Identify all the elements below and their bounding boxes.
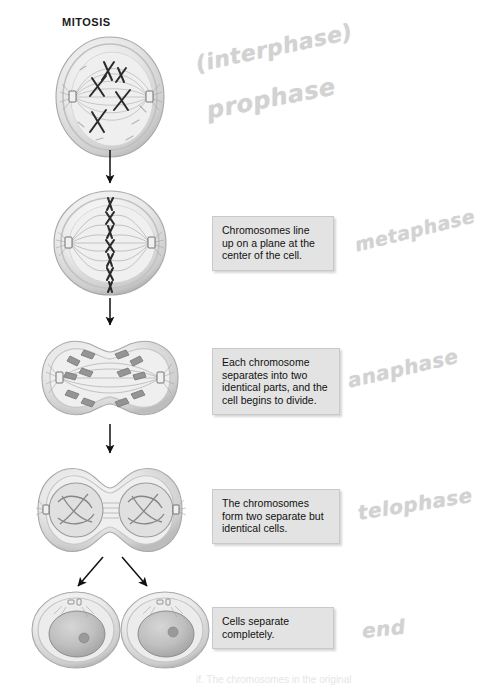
- mitosis-diagram-page: MITOSIS: [0, 0, 477, 687]
- callout-anaphase: Each chromosome separates into two ident…: [212, 348, 340, 415]
- daughter-cells-illustration: [32, 592, 209, 668]
- telophase-cell-illustration: [36, 469, 186, 586]
- metaphase-cell-illustration: [54, 191, 166, 325]
- cropped-bottom-caption: if. The chromosomes in the original: [196, 674, 471, 686]
- arrow-telophase-to-left-daughter: [78, 557, 103, 586]
- callout-telophase: The chromosomes form two separate but id…: [212, 489, 340, 544]
- callout-end: Cells separate completely.: [212, 607, 334, 649]
- annotation-end: end: [361, 615, 407, 643]
- callout-metaphase: Chromosomes line up on a plane at the ce…: [212, 216, 334, 271]
- arrow-telophase-to-right-daughter: [122, 557, 147, 586]
- prophase-cell-illustration: [56, 37, 164, 183]
- anaphase-cell-illustration: [42, 341, 178, 453]
